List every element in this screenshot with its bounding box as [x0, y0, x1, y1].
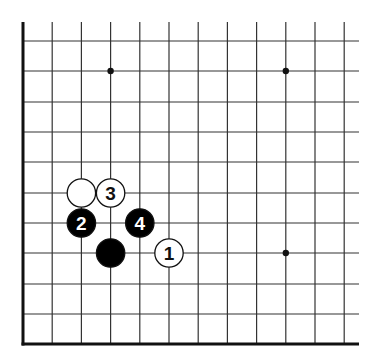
star-point: [107, 68, 113, 74]
go-board-diagram: 3241: [0, 0, 380, 364]
star-point: [283, 68, 289, 74]
star-point: [283, 250, 289, 256]
move-number-label: 4: [135, 213, 146, 234]
white-stone-1: 1: [155, 239, 183, 267]
stone-circle: [67, 179, 95, 207]
move-number-label: 2: [76, 213, 87, 234]
black-stone: [96, 239, 124, 267]
move-number-label: 1: [164, 243, 175, 264]
white-stone-3: 3: [96, 179, 124, 207]
stone-circle: [96, 239, 124, 267]
black-stone-2: 2: [67, 209, 95, 237]
black-stone-4: 4: [126, 209, 154, 237]
white-stone: [67, 179, 95, 207]
move-number-label: 3: [105, 183, 116, 204]
